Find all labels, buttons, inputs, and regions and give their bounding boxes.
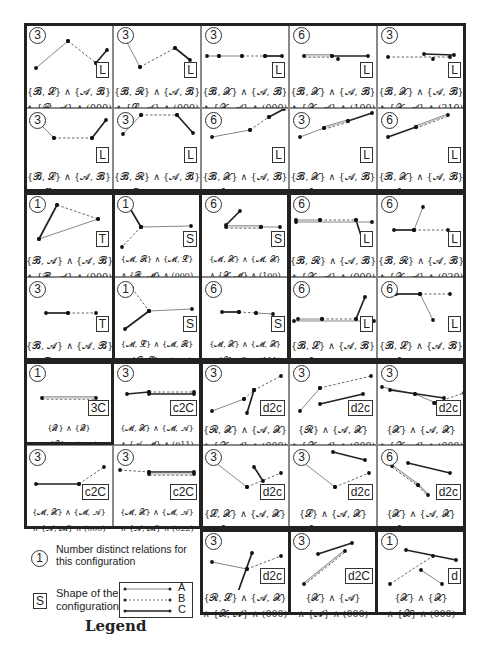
shape-label: d2c	[436, 484, 461, 500]
relation-count-badge: 6	[381, 281, 398, 298]
configuration-cell: 1S{𝓜, 𝓛} ∧ {𝓜, 𝓡}∧ {𝓡, 𝓛} ∧ (000)	[113, 277, 201, 361]
relation-count-badge: 3	[117, 27, 134, 44]
relation-count-badge: 6	[381, 449, 398, 466]
shape-label: c2C	[170, 484, 197, 500]
shape-label: L	[272, 62, 285, 78]
formula-line-1: {𝓑, 𝓐} ∧ {𝓐, 𝓑}	[26, 255, 112, 267]
formula-line-1: {𝓑, 𝓛} ∧ {𝓐, 𝓑}	[378, 340, 464, 352]
formula-line-1: {𝓜, 𝓡} ∧ {𝓜, 𝓛}	[114, 255, 200, 265]
formula-line-1: {𝓡, 𝓧} ∧ {𝓐, 𝓧}	[202, 424, 288, 436]
formula-line-1: {𝓜, 𝓧} ∧ {𝓜, 𝓐}	[114, 508, 200, 518]
shape-label: L	[448, 231, 461, 247]
relation-count-badge: 6	[205, 196, 222, 213]
formula-line-2: ∧ {𝓧} ∧ (000)	[378, 608, 464, 620]
legend-line-types: A B C	[119, 582, 193, 618]
configuration-cell: 3L{𝓑, 𝓧} ∧ {𝓐, 𝓑}∧ {𝓧, 𝓐} ∧ (120)	[289, 108, 377, 192]
relation-count-badge: 3	[205, 533, 222, 550]
formula-line-1: {𝓑, 𝓡} ∧ {𝓐, 𝓑}	[114, 171, 200, 183]
relation-count-badge: 6	[381, 196, 398, 213]
shape-label: d2c	[348, 484, 373, 500]
formula-line-1: {𝓑, 𝓡} ∧ {𝓐, 𝓑}	[290, 255, 376, 267]
relation-count-badge: 6	[293, 281, 310, 298]
relation-count-badge: 1	[117, 196, 134, 213]
relation-count-badge: 3	[205, 27, 222, 44]
formula-line-1: {𝓑, 𝓐} ∧ {𝓐, 𝓑}	[26, 340, 112, 352]
relation-count-badge: 3	[117, 112, 134, 129]
formula-line-1: {𝓑, 𝓧} ∧ {𝓐, 𝓑}	[290, 86, 376, 98]
formula-line-1: {𝓠} ∧ {𝓠}	[26, 424, 112, 434]
legend-shape-desc-line1: Shape of the	[56, 587, 119, 600]
relation-count-badge: 6	[205, 112, 222, 129]
formula-line-1: {𝓡, 𝓛} ∧ {𝓐, 𝓧}	[202, 592, 288, 604]
configuration-cell: 3L{𝓑, 𝓧} ∧ {𝓐, 𝓑}∧ {𝓧, 𝓐} ∧ (000)	[201, 23, 289, 108]
formula-line-2: ∧ {𝓐} ∧ (000)	[290, 608, 376, 620]
formula-line-1: {𝓑, 𝓧} ∧ {𝓐, 𝓑}	[378, 171, 464, 183]
relation-count-badge: 3	[29, 449, 46, 466]
relation-count-badge: 3	[205, 449, 222, 466]
configuration-cell: 3c2C{𝓜, 𝓧} ∧ {𝓜, 𝓐}∧ {𝓐, 𝓜} ∧ (000)	[25, 445, 113, 529]
relation-count-badge: 3	[29, 27, 46, 44]
relation-count-badge: 1	[117, 281, 134, 298]
configuration-cell: 6d2c{𝓧} ∧ {𝓐, 𝓧}∧ {𝓧, 𝓐} ∧ (100)	[377, 445, 465, 529]
configuration-cell: 6L{𝓑, 𝓡} ∧ {𝓐, 𝓑}∧ {𝓧, 𝓐} ∧ (000)	[289, 192, 377, 277]
configuration-cell: 1d{𝓧} ∧ {𝓧}∧ {𝓧} ∧ (000)	[377, 529, 465, 615]
shape-label: S	[271, 316, 285, 332]
configuration-cell: 3d2c{𝓛} ∧ {𝓐, 𝓧}∧ {𝓧, 𝓐} ∧ (000)	[289, 445, 377, 529]
formula-line-2: ∧ {𝓐, 𝓜} ∧ (022)	[114, 524, 200, 534]
shape-label: 3C	[88, 400, 109, 416]
configuration-cell: 3L{𝓑, 𝓛} ∧ {𝓐, 𝓑}∧ {𝓡, 𝓐} ∧ (000)	[25, 23, 113, 108]
legend-number-desc-line1: Number distinct relations for	[56, 543, 187, 555]
shape-label: d2c	[260, 568, 285, 584]
configuration-cell: 3d2C{𝓧} ∧ {𝓐}∧ {𝓐} ∧ (000)	[289, 529, 377, 615]
configuration-cell: 3L{𝓑, 𝓧} ∧ {𝓐, 𝓑}∧ {𝓧, 𝓐} ∧ (210)	[377, 23, 465, 108]
legend-shape-example: S	[33, 593, 47, 609]
configuration-cell: 6L{𝓑, 𝓧} ∧ {𝓐, 𝓑}∧ {𝓧, 𝓐} ∧ (010)	[201, 108, 289, 192]
legend-shape-desc: Shape of the configuration	[56, 587, 119, 613]
configuration-cell: 3d2c{𝓡, 𝓧} ∧ {𝓐, 𝓧}∧ {𝓧, 𝓐} ∧ (000)	[201, 361, 289, 445]
configuration-cell: 13C{𝓠} ∧ {𝓠}∧ {𝓠} ∧ (000)	[25, 361, 113, 445]
relation-count-badge: 3	[293, 449, 310, 466]
relation-count-badge: 1	[29, 196, 46, 213]
formula-line-1: {𝓑, 𝓡} ∧ {𝓐, 𝓑}	[114, 86, 200, 98]
configuration-cell: 6L{𝓑, 𝓡} ∧ {𝓐, 𝓑}∧ {𝓧, 𝓐} ∧ (020)	[377, 192, 465, 277]
shape-label: L	[184, 62, 197, 78]
legend-line-c-label: C	[178, 604, 186, 615]
relation-count-badge: 3	[117, 449, 134, 466]
shape-label: L	[360, 62, 373, 78]
formula-line-1: {𝓑, 𝓡} ∧ {𝓐, 𝓑}	[378, 255, 464, 267]
relation-count-badge: 3	[117, 365, 134, 382]
configuration-cell: 1T{𝓑, 𝓐} ∧ {𝓐, 𝓑}∧ {𝓑, 𝓐} ∧ (000)	[25, 192, 113, 277]
shape-label: L	[96, 62, 109, 78]
configuration-cell: 6L{𝓑, 𝓧} ∧ {𝓐, 𝓑}∧ {𝓧, 𝓐} ∧ (220)	[377, 108, 465, 192]
formula-line-1: {𝓜, 𝓧} ∧ {𝓜, 𝓐}	[114, 424, 200, 434]
shape-label: L	[448, 316, 461, 332]
shape-label: L	[360, 316, 373, 332]
relation-count-badge: 3	[293, 365, 310, 382]
shape-label: d2c	[260, 484, 285, 500]
configuration-cell: 3d2c{𝓡} ∧ {𝓐, 𝓧}∧ {𝓧, 𝓐} ∧ (000)	[289, 361, 377, 445]
shape-label: T	[96, 231, 109, 247]
formula-line-1: {𝓛} ∧ {𝓐, 𝓧}	[290, 508, 376, 520]
configuration-cell: 3d2c{𝓧} ∧ {𝓐, 𝓧}∧ {𝓧, 𝓐} ∧ (000)	[377, 361, 465, 445]
shape-label: L	[448, 147, 461, 163]
formula-line-1: {𝓜, 𝓧} ∧ {𝓜, 𝓐}	[26, 508, 112, 518]
shape-label: S	[271, 231, 285, 247]
shape-label: L	[360, 231, 373, 247]
configuration-cell: 1S{𝓜, 𝓡} ∧ {𝓜, 𝓛}∧ {𝓡, 𝓜} ∧ (000)	[113, 192, 201, 277]
configuration-cell: 6L{𝓑, 𝓛} ∧ {𝓐, 𝓑}∧ {𝓧, 𝓐} ∧ (000)	[289, 277, 377, 361]
formula-line-2: ∧ {𝓧, 𝓐} ∧ (000)	[202, 608, 288, 620]
formula-line-1: {𝓧} ∧ {𝓧}	[378, 592, 464, 604]
formula-line-1: {𝓑, 𝓛} ∧ {𝓐, 𝓑}	[290, 340, 376, 352]
shape-label: d	[448, 568, 461, 584]
formula-line-1: {𝓧} ∧ {𝓐, 𝓧}	[378, 508, 464, 520]
configuration-cell: 3L{𝓑, 𝓡} ∧ {𝓐, 𝓑}∧ {𝓡, 𝓐} ∧ (000)	[113, 108, 201, 192]
shape-label: d2c	[348, 400, 373, 416]
formula-line-2: ∧ {𝓐, 𝓜} ∧ (000)	[26, 524, 112, 534]
formula-line-1: {𝓡} ∧ {𝓐, 𝓧}	[290, 424, 376, 436]
legend-number-desc: Number distinct relations for this confi…	[56, 543, 187, 567]
relation-count-badge: 3	[381, 27, 398, 44]
configuration-cell: 3d2c{𝓛, 𝓧} ∧ {𝓐, 𝓧}∧ {𝓧, 𝓐} ∧ (000)	[201, 445, 289, 529]
shape-label: S	[183, 231, 197, 247]
formula-line-1: {𝓑, 𝓧} ∧ {𝓐, 𝓑}	[378, 86, 464, 98]
relation-count-badge: 6	[293, 27, 310, 44]
